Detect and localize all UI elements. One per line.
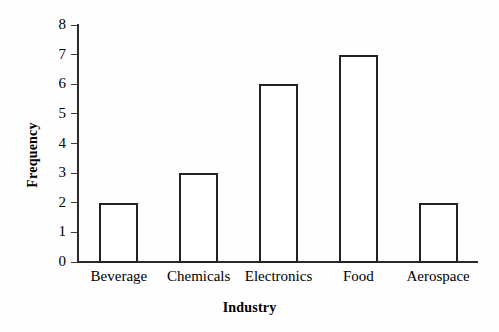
y-axis-tick-label: 3 [40, 165, 66, 180]
bar [339, 55, 378, 263]
bar [99, 203, 138, 263]
y-axis-tick-label-text: 0 [44, 254, 66, 269]
bar-chart: Frequency 012345678 BeverageChemicalsEle… [0, 0, 499, 332]
y-axis-tick-label-text: 8 [44, 17, 66, 32]
y-axis-title: Frequency [25, 100, 41, 210]
y-axis-tick-label: 2 [40, 195, 66, 210]
y-axis-line [77, 24, 79, 263]
y-axis-tick-label: 5 [40, 106, 66, 121]
x-axis-title: Industry [0, 300, 499, 316]
y-axis-tick-label: 7 [40, 47, 66, 62]
y-axis-tick-label-text: 1 [44, 224, 66, 239]
bar [259, 84, 298, 263]
y-axis-tick-label: 6 [40, 76, 66, 91]
y-axis-tick-label: 1 [40, 224, 66, 239]
y-axis-tick-label-text: 3 [44, 165, 66, 180]
y-axis-tick-label: 4 [40, 136, 66, 151]
bar [419, 203, 458, 263]
y-axis-tick-label: 0 [40, 254, 66, 269]
y-axis-tick-label-text: 7 [44, 47, 66, 62]
y-axis-tick-label-text: 5 [44, 106, 66, 121]
y-axis-tick-label-text: 2 [44, 195, 66, 210]
y-axis-tick-label-text: 6 [44, 76, 66, 91]
y-axis-tick-label: 8 [40, 17, 66, 32]
y-axis-tick-label-text: 4 [44, 136, 66, 151]
x-axis-tick-label: Aerospace [378, 268, 498, 285]
bar [179, 173, 218, 263]
